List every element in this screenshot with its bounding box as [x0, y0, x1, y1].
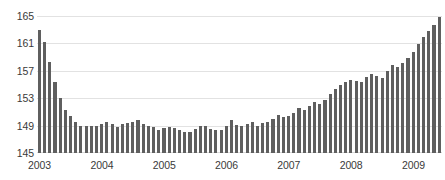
- bar: [204, 126, 207, 153]
- y-axis-tick-label: 165: [4, 11, 34, 21]
- bar: [136, 120, 139, 153]
- y-axis-tick-label: 145: [4, 148, 34, 158]
- bar: [360, 82, 363, 153]
- bar: [48, 62, 51, 153]
- bar: [375, 76, 378, 153]
- bar: [90, 126, 93, 153]
- bar: [105, 122, 108, 154]
- bar: [230, 120, 233, 153]
- bar: [266, 122, 269, 153]
- bar: [178, 130, 181, 153]
- bar: [64, 110, 67, 153]
- bar: [427, 31, 430, 153]
- bar: [417, 44, 420, 153]
- bar: [396, 67, 399, 153]
- bar: [59, 98, 62, 153]
- bar: [401, 63, 404, 153]
- bar: [277, 115, 280, 153]
- bar: [370, 74, 373, 153]
- bar: [251, 122, 254, 154]
- bar-chart: 145149153157161165 200320042005200620072…: [0, 0, 445, 180]
- bar: [79, 126, 82, 153]
- bar: [209, 129, 212, 153]
- bar: [43, 42, 46, 153]
- bar: [308, 106, 311, 153]
- bar: [287, 116, 290, 153]
- bar: [297, 108, 300, 153]
- y-axis-tick-label: 149: [4, 121, 34, 131]
- bar: [292, 113, 295, 153]
- bar: [220, 130, 223, 153]
- bar: [157, 130, 160, 153]
- bar: [69, 116, 72, 153]
- bar: [85, 126, 88, 153]
- bar: [214, 130, 217, 153]
- x-axis-tick-label: 2009: [393, 160, 433, 171]
- bar: [188, 132, 191, 153]
- bar: [313, 102, 316, 153]
- bar: [121, 124, 124, 153]
- bar: [349, 80, 352, 153]
- x-axis-tick-label: 2006: [207, 160, 247, 171]
- bar: [100, 124, 103, 153]
- y-axis-tick-label: 161: [4, 38, 34, 48]
- bar: [256, 126, 259, 153]
- bar: [329, 94, 332, 153]
- bar: [318, 104, 321, 153]
- y-axis-tick-label: 153: [4, 93, 34, 103]
- bar: [323, 100, 326, 153]
- bar: [365, 77, 368, 153]
- x-axis-tick-label: 2003: [20, 160, 60, 171]
- bar-series: [37, 16, 442, 153]
- bar: [334, 89, 337, 153]
- bar: [355, 81, 358, 153]
- bar: [152, 127, 155, 153]
- x-axis-tick-label: 2005: [144, 160, 184, 171]
- bar: [422, 37, 425, 153]
- bar: [173, 128, 176, 153]
- bar: [116, 127, 119, 153]
- bar: [412, 52, 415, 153]
- bar: [131, 122, 134, 154]
- bar: [126, 123, 129, 153]
- bar: [95, 126, 98, 153]
- bar: [199, 126, 202, 153]
- bar: [303, 110, 306, 153]
- bar: [391, 65, 394, 153]
- y-axis-tick-label: 157: [4, 66, 34, 76]
- bar: [111, 124, 114, 153]
- bar: [183, 132, 186, 153]
- bar: [235, 125, 238, 153]
- bar: [261, 123, 264, 153]
- x-axis-tick-label: 2004: [82, 160, 122, 171]
- x-axis-tick-label: 2008: [331, 160, 371, 171]
- bar: [162, 128, 165, 153]
- bar: [38, 30, 41, 153]
- bar: [271, 119, 274, 153]
- bar: [432, 25, 435, 153]
- bar: [282, 117, 285, 153]
- bar: [381, 78, 384, 153]
- bar: [142, 124, 145, 153]
- bar: [168, 127, 171, 153]
- bar: [53, 82, 56, 153]
- bar: [246, 124, 249, 153]
- bar: [344, 82, 347, 153]
- bar: [339, 85, 342, 154]
- bar: [438, 17, 441, 153]
- bar: [240, 126, 243, 153]
- x-axis-tick-label: 2007: [269, 160, 309, 171]
- plot-area: [37, 16, 442, 153]
- bar: [147, 126, 150, 153]
- bar: [74, 122, 77, 154]
- bar: [406, 58, 409, 153]
- bar: [386, 71, 389, 153]
- bar: [194, 129, 197, 153]
- bar: [225, 126, 228, 153]
